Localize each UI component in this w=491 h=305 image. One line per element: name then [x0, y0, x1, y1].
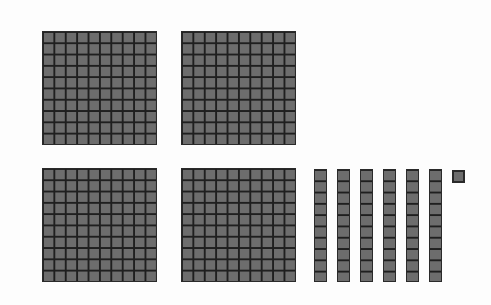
ten-rod [337, 169, 350, 282]
base-ten-blocks-diagram [0, 0, 491, 305]
ten-rod [360, 169, 373, 282]
hundred-block [181, 168, 296, 282]
unit-cube [452, 170, 465, 183]
hundred-block [181, 31, 296, 145]
hundred-block [42, 31, 157, 145]
ten-rod [429, 169, 442, 282]
ten-rod [406, 169, 419, 282]
ten-rod [314, 169, 327, 282]
hundred-block [42, 168, 157, 282]
ten-rod [383, 169, 396, 282]
